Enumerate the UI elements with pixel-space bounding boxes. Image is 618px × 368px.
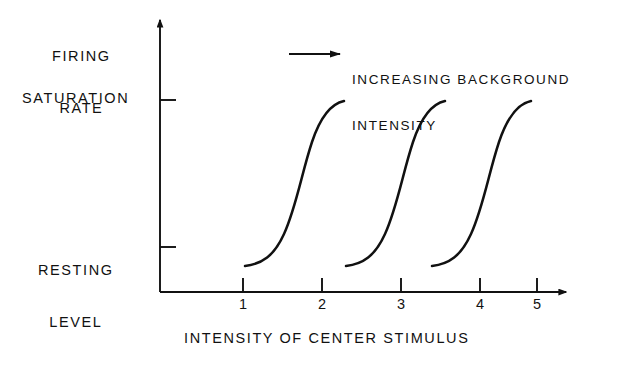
y-axis-title: FIRING RATE [52, 14, 111, 151]
figure-container: FIRING RATE SATURATION RESTING LEVEL 1 2… [0, 0, 618, 368]
x-tick-label-3: 3 [391, 296, 411, 312]
y-tick-label-resting-level: RESTING LEVEL [38, 228, 114, 365]
x-tick-label-1: 1 [233, 296, 253, 312]
sigmoid-curve-1 [245, 101, 344, 266]
resting-label-line2: LEVEL [38, 314, 114, 331]
annotation-line2: INTENSITY [352, 118, 570, 133]
resting-label-line1: RESTING [38, 262, 114, 279]
annotation-increasing-background-intensity: INCREASING BACKGROUND INTENSITY [352, 42, 570, 163]
y-axis-title-line1: FIRING [52, 48, 111, 65]
x-tick-label-4: 4 [470, 296, 490, 312]
annotation-line1: INCREASING BACKGROUND [352, 72, 570, 87]
x-tick-label-5: 5 [527, 296, 547, 312]
y-tick-label-saturation: SATURATION [22, 90, 129, 107]
x-axis-title: INTENSITY OF CENTER STIMULUS [184, 330, 469, 347]
x-tick-label-2: 2 [312, 296, 332, 312]
